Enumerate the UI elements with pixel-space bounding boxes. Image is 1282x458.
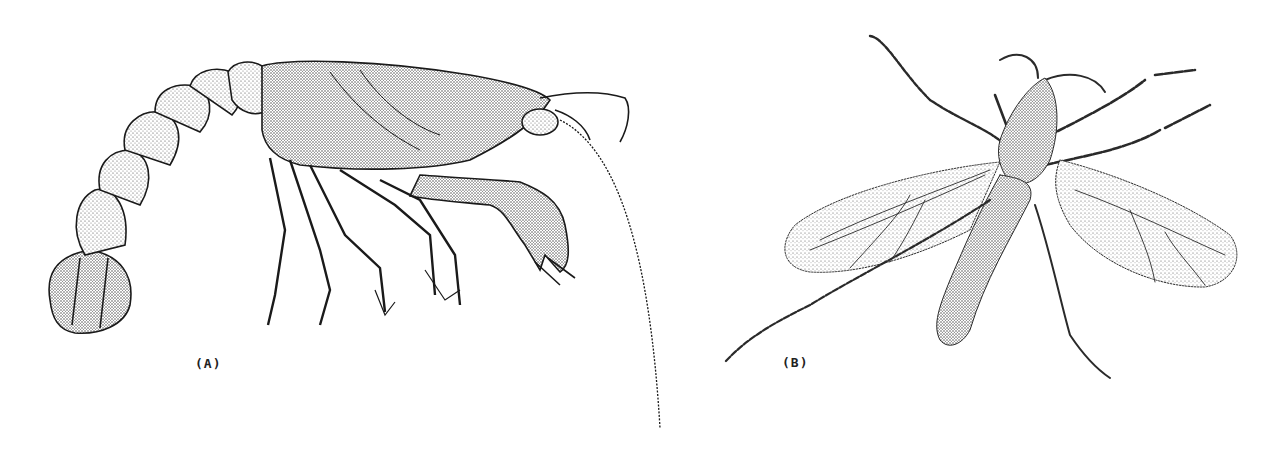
winged-insect-illustration [700, 0, 1282, 458]
crayfish-illustration [0, 0, 680, 458]
figure-panel-a: (A) [0, 0, 680, 458]
panel-label-a: (A) [195, 356, 221, 371]
panel-label-b: (B) [782, 355, 808, 370]
figure-panel-b: (B) [700, 0, 1282, 458]
